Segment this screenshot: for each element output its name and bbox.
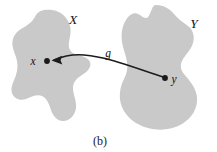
set-label-y: Y	[190, 16, 199, 31]
set-blob-x	[11, 10, 90, 121]
set-mapping-diagram: x y X Y g (b)	[0, 0, 217, 152]
point-dot-x	[44, 58, 50, 64]
set-blob-y	[120, 5, 197, 130]
mapping-label-g: g	[105, 47, 111, 60]
set-label-x: X	[68, 12, 78, 27]
point-label-y: y	[170, 73, 177, 86]
figure-panel: x y X Y g (b)	[0, 0, 217, 152]
point-dot-y	[162, 75, 168, 81]
point-label-x: x	[29, 55, 36, 67]
figure-caption: (b)	[93, 134, 107, 148]
